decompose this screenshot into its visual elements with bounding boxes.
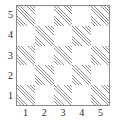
y-axis-tick-label: 2 [0,71,13,81]
grid-cell [17,46,35,66]
grid-cell [91,65,109,85]
checkerboard-figure: 5 4 3 2 1 1 2 3 4 5 [0,0,120,126]
grid-cell [35,6,53,26]
grid-cell [91,6,109,26]
x-axis-tick-label: 4 [72,108,91,118]
grid-cell [35,85,53,105]
x-axis-tick-label: 1 [16,108,35,118]
grid-cell [91,85,109,105]
grid-cell [91,26,109,46]
y-axis-tick-label: 3 [0,51,13,61]
grid-cell [54,6,72,26]
x-axis-tick-label: 5 [91,108,110,118]
y-axis-tick-label: 5 [0,10,13,20]
grid-cell [17,26,35,46]
grid-cell [72,6,90,26]
checkerboard-grid [17,6,109,105]
y-axis-tick-label: 4 [0,30,13,40]
grid-cell [35,65,53,85]
grid-cell [17,85,35,105]
grid-cell [54,26,72,46]
grid-cell [35,46,53,66]
grid-cell [35,26,53,46]
grid-cell [54,65,72,85]
grid-cell [72,85,90,105]
grid-cell [17,6,35,26]
grid-cell [17,65,35,85]
plot-area [16,5,110,106]
y-axis-tick-label: 1 [0,91,13,101]
x-axis-tick-label: 3 [54,108,73,118]
x-axis-tick-label: 2 [35,108,54,118]
grid-cell [72,46,90,66]
grid-cell [72,65,90,85]
grid-cell [54,85,72,105]
grid-cell [54,46,72,66]
grid-cell [72,26,90,46]
grid-cell [91,46,109,66]
